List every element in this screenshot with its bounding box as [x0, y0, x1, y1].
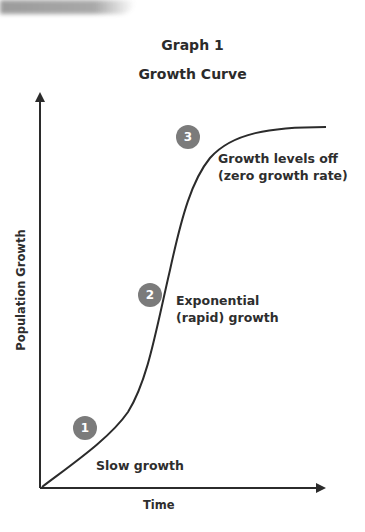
y-axis-label: Population Growth — [14, 229, 28, 350]
marker-2-icon: 2 — [138, 283, 162, 307]
marker-1-icon: 1 — [73, 416, 97, 440]
marker-3-icon: 3 — [176, 125, 200, 149]
annotation-levels-off-line2: (zero growth rate) — [218, 167, 348, 184]
x-axis-label: Time — [143, 498, 175, 512]
annotation-exponential-line2: (rapid) growth — [176, 309, 279, 326]
growth-curve-plot — [0, 0, 365, 532]
annotation-levels-off: Growth levels off (zero growth rate) — [218, 150, 348, 184]
annotation-exponential: Exponential (rapid) growth — [176, 292, 279, 326]
annotation-slow-growth: Slow growth — [96, 457, 184, 474]
annotation-exponential-line1: Exponential — [176, 292, 279, 309]
annotation-levels-off-line1: Growth levels off — [218, 150, 348, 167]
